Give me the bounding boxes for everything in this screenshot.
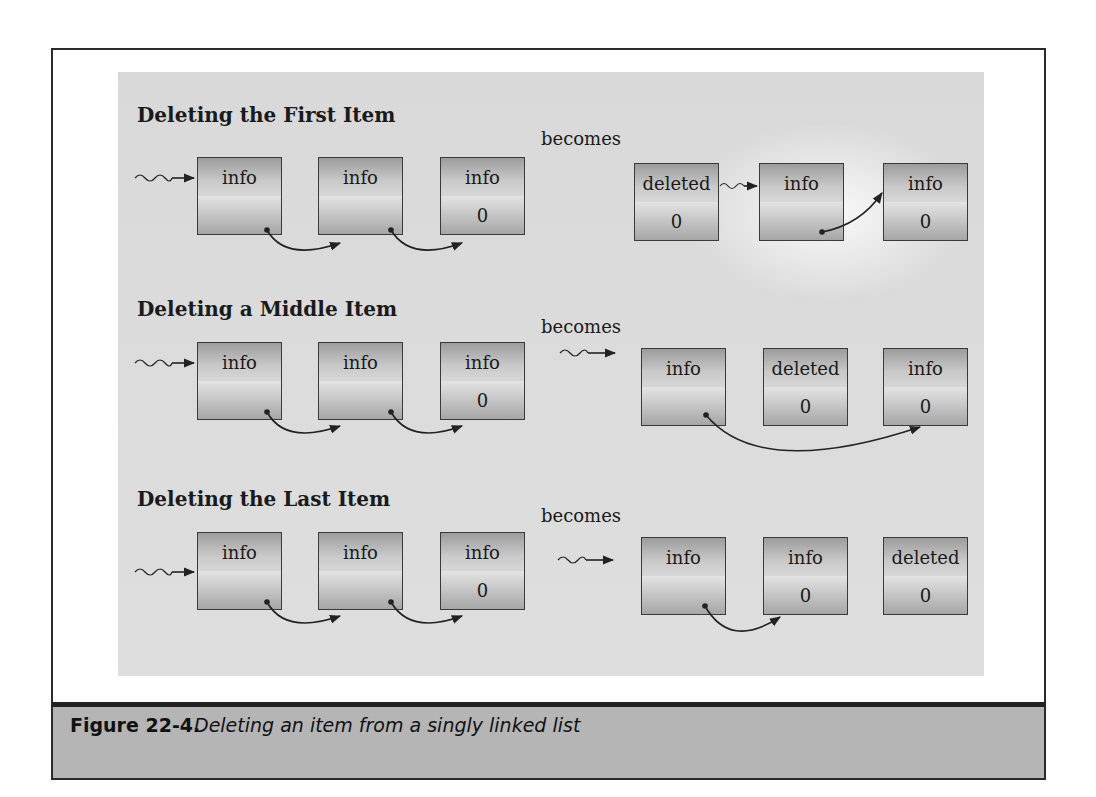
figure-label: Figure 22-4. <box>70 714 200 736</box>
node-last-before-3: info 0 <box>440 532 525 610</box>
node-info: info <box>441 533 524 572</box>
node-link <box>198 571 281 609</box>
node-info: info <box>642 349 725 388</box>
node-last-before-1: info <box>197 532 282 610</box>
node-last-after-1: info <box>641 537 726 615</box>
node-first-before-2: info <box>318 157 403 235</box>
node-info: info <box>319 343 402 382</box>
node-info: info <box>441 158 524 197</box>
node-link: 0 <box>884 576 967 614</box>
node-link <box>319 381 402 419</box>
node-link: 0 <box>884 202 967 240</box>
node-first-after-3: info 0 <box>883 163 968 241</box>
node-info: info <box>198 533 281 572</box>
node-link: 0 <box>764 576 847 614</box>
node-info: info <box>884 164 967 203</box>
node-link <box>760 202 843 240</box>
node-link: 0 <box>764 387 847 425</box>
node-info: info <box>198 343 281 382</box>
node-first-before-1: info <box>197 157 282 235</box>
node-middle-before-2: info <box>318 342 403 420</box>
node-link: 0 <box>441 571 524 609</box>
node-link <box>198 381 281 419</box>
node-link: 0 <box>441 196 524 234</box>
node-link <box>642 576 725 614</box>
node-info: info <box>642 538 725 577</box>
node-link <box>319 196 402 234</box>
becomes-label-first: becomes <box>541 128 621 149</box>
node-last-after-3: deleted 0 <box>883 537 968 615</box>
node-middle-after-2: deleted 0 <box>763 348 848 426</box>
node-middle-before-3: info 0 <box>440 342 525 420</box>
becomes-label-middle: becomes <box>541 316 621 337</box>
section-title-last: Deleting the Last Item <box>137 487 390 511</box>
node-info: info <box>764 538 847 577</box>
section-title-middle: Deleting a Middle Item <box>137 297 397 321</box>
node-info: info <box>441 343 524 382</box>
node-info: deleted <box>635 164 718 203</box>
section-title-first: Deleting the First Item <box>137 103 395 127</box>
node-info: info <box>319 533 402 572</box>
node-info: info <box>760 164 843 203</box>
node-link: 0 <box>441 381 524 419</box>
node-info: deleted <box>764 349 847 388</box>
node-link <box>198 196 281 234</box>
node-info: info <box>884 349 967 388</box>
node-first-after-1: deleted 0 <box>634 163 719 241</box>
node-last-before-2: info <box>318 532 403 610</box>
becomes-label-last: becomes <box>541 505 621 526</box>
node-middle-after-1: info <box>641 348 726 426</box>
node-info: deleted <box>884 538 967 577</box>
node-info: info <box>319 158 402 197</box>
figure-caption: Deleting an item from a singly linked li… <box>194 714 580 736</box>
node-first-after-2: info <box>759 163 844 241</box>
node-middle-after-3: info 0 <box>883 348 968 426</box>
node-link <box>642 387 725 425</box>
node-middle-before-1: info <box>197 342 282 420</box>
node-info: info <box>198 158 281 197</box>
node-link <box>319 571 402 609</box>
node-link: 0 <box>635 202 718 240</box>
node-first-before-3: info 0 <box>440 157 525 235</box>
node-last-after-2: info 0 <box>763 537 848 615</box>
node-link: 0 <box>884 387 967 425</box>
